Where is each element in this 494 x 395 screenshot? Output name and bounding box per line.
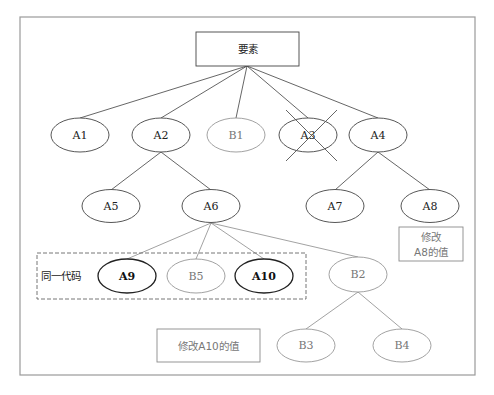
- svg-text:A10: A10: [251, 270, 276, 283]
- svg-text:A8: A8: [422, 200, 438, 213]
- node-a5: A5: [82, 190, 140, 223]
- svg-text:A4: A4: [370, 129, 386, 142]
- svg-text:B5: B5: [188, 270, 203, 283]
- note-modify-a10: 修改A10的值: [157, 329, 260, 362]
- note-modify-a8: 修改 A8的值: [399, 227, 463, 261]
- tree-diagram: 要素 A1 A2 B1 A3 A4 A5 A6 A7 A8: [0, 0, 494, 395]
- node-b4: B4: [373, 329, 431, 362]
- root-label: 要素: [238, 43, 258, 55]
- node-a10: A10: [235, 259, 293, 293]
- svg-text:A6: A6: [203, 200, 219, 213]
- node-a2: A2: [132, 118, 190, 152]
- group-label: 同一代码: [41, 270, 81, 282]
- node-b1: B1: [207, 118, 265, 152]
- svg-text:A9: A9: [118, 270, 135, 283]
- svg-text:A7: A7: [327, 200, 343, 213]
- node-a1: A1: [51, 118, 109, 152]
- svg-text:A8的值: A8的值: [414, 246, 449, 258]
- svg-text:B3: B3: [298, 339, 313, 352]
- svg-text:B1: B1: [228, 129, 243, 142]
- svg-text:A5: A5: [103, 200, 119, 213]
- node-b5: B5: [167, 259, 225, 293]
- svg-text:A2: A2: [153, 129, 169, 142]
- node-b2: B2: [329, 257, 387, 292]
- svg-text:B2: B2: [350, 268, 365, 281]
- node-a6: A6: [182, 190, 240, 223]
- root-node: 要素: [196, 32, 299, 66]
- node-a4: A4: [349, 118, 407, 152]
- node-a9: A9: [98, 259, 156, 293]
- svg-text:修改: 修改: [421, 231, 442, 243]
- node-a7: A7: [306, 190, 364, 223]
- svg-text:A1: A1: [72, 129, 88, 142]
- svg-text:修改A10的值: 修改A10的值: [178, 340, 240, 352]
- node-b3: B3: [277, 329, 335, 362]
- node-a8: A8: [401, 190, 459, 223]
- svg-text:B4: B4: [394, 339, 409, 352]
